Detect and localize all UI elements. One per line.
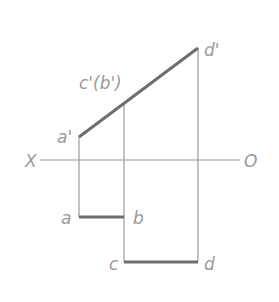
label-a: a [61, 208, 71, 228]
label-a-prime: a' [57, 127, 72, 147]
label-b: b [133, 208, 144, 228]
axis-label-o: O [244, 151, 257, 171]
label-d-prime: d' [204, 40, 219, 60]
label-c: c [109, 254, 119, 274]
label-d: d [204, 254, 215, 274]
label-c-prime-b-prime: c'(b') [79, 73, 122, 93]
projection-diagram: X O a' c'(b') d' a b c d [0, 0, 279, 302]
axis-label-x: X [24, 151, 37, 171]
